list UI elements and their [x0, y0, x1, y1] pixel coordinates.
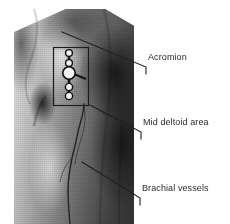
photograph-grain: [14, 9, 134, 224]
anatomy-figure: Acromion Mid deltoid area Brachial vesse…: [0, 0, 230, 224]
label-mid-deltoid-area: Mid deltoid area: [143, 117, 209, 127]
label-acromion: Acromion: [148, 52, 187, 62]
shoulder-arm-photograph: [14, 9, 134, 224]
label-brachial-vessels: Brachial vessels: [142, 183, 209, 193]
